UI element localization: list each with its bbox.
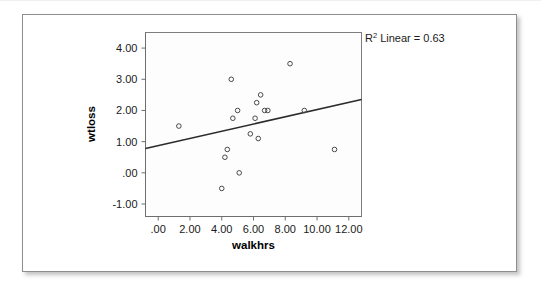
x-axis-ticks: .002.004.006.008.0010.0012.00 (151, 217, 363, 235)
y-tick-label: 3.00 (116, 73, 137, 85)
y-tick-label: 1.00 (116, 136, 137, 148)
scatter-chart: -1.00.001.002.003.004.00 .002.004.006.00… (0, 0, 541, 291)
x-tick-label: 8.00 (275, 223, 296, 235)
r-squared-prefix: R (365, 32, 373, 44)
r-squared-annotation: R2 Linear = 0.63 (365, 31, 445, 44)
x-tick-label: 12.00 (335, 223, 363, 235)
x-tick-label: 6.00 (243, 223, 264, 235)
y-axis-ticks: -1.00.001.002.003.004.00 (112, 42, 145, 210)
x-tick-label: .00 (151, 223, 166, 235)
y-tick-label: 4.00 (116, 42, 137, 54)
x-tick-label: 4.00 (211, 223, 232, 235)
x-tick-label: 10.00 (303, 223, 331, 235)
y-tick-label: 2.00 (116, 104, 137, 116)
y-tick-label: -1.00 (112, 198, 137, 210)
x-tick-label: 2.00 (179, 223, 200, 235)
x-axis-title: walkhrs (231, 239, 275, 251)
y-tick-label: .00 (122, 167, 137, 179)
r-squared-text: Linear = 0.63 (377, 32, 445, 44)
y-axis-title: wtloss (85, 106, 97, 143)
chart-canvas: -1.00.001.002.003.004.00 .002.004.006.00… (0, 0, 541, 291)
